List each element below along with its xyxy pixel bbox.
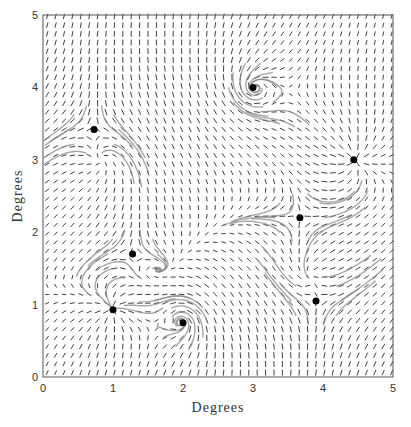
vector-field-chart: 012345 012345 Degrees Degrees <box>0 0 411 427</box>
vector-arrow <box>46 345 48 349</box>
vector-arrow <box>391 127 393 131</box>
vector-arrow <box>247 66 250 71</box>
vector-arrow <box>357 179 359 184</box>
vector-arrow <box>214 153 216 157</box>
vector-arrow <box>323 110 325 114</box>
vector-arrow <box>79 109 82 114</box>
vector-arrow <box>357 370 359 375</box>
vector-arrow <box>215 370 216 375</box>
vector-arrow <box>54 336 56 339</box>
vector-arrow <box>179 285 184 286</box>
vector-arrow <box>289 128 293 130</box>
vector-arrow <box>55 371 57 375</box>
vector-arrow <box>89 31 90 36</box>
vector-arrow <box>215 335 216 340</box>
vector-arrow <box>155 336 158 339</box>
vector-arrow <box>273 327 275 332</box>
vector-arrow <box>215 361 216 366</box>
vector-arrow <box>104 267 108 269</box>
vector-arrow <box>198 344 199 349</box>
vector-arrow <box>173 83 174 88</box>
vector-arrow <box>54 302 57 303</box>
vector-arrow <box>324 49 325 53</box>
vector-arrow <box>223 180 224 184</box>
vector-arrow <box>97 31 98 36</box>
vector-arrow <box>265 335 266 340</box>
vector-arrow <box>188 276 192 277</box>
vector-arrow <box>383 40 384 44</box>
vector-arrow <box>163 294 167 295</box>
vector-arrow <box>298 309 301 314</box>
vector-arrow <box>105 362 106 367</box>
vector-arrow <box>272 129 276 131</box>
vector-arrow <box>79 172 83 174</box>
vector-arrow <box>223 335 224 340</box>
vector-arrow <box>348 154 352 158</box>
vector-arrow <box>113 231 116 235</box>
vector-arrow <box>324 93 325 97</box>
vector-arrow <box>147 327 149 331</box>
vector-arrow <box>305 163 309 165</box>
vector-arrow <box>46 353 48 357</box>
vector-arrow <box>113 214 115 219</box>
vector-arrow <box>298 32 300 36</box>
vector-arrow <box>63 84 65 89</box>
vector-arrow <box>264 32 267 36</box>
vector-arrow <box>348 250 352 252</box>
vector-arrow <box>322 301 327 305</box>
vector-arrow <box>314 240 317 244</box>
vector-arrow <box>383 58 384 62</box>
vector-arrow <box>122 92 123 97</box>
vector-arrow <box>281 32 284 36</box>
vector-arrow <box>340 353 342 358</box>
vector-arrow <box>248 344 249 349</box>
vector-arrow <box>349 127 350 132</box>
vector-arrow <box>46 223 49 226</box>
vector-arrow <box>46 197 49 200</box>
vector-arrow <box>113 292 115 297</box>
vector-arrow <box>280 103 284 104</box>
vector-arrow <box>280 68 284 70</box>
vector-arrow <box>341 92 342 96</box>
vector-arrow <box>122 214 123 219</box>
vector-arrow <box>205 259 209 261</box>
vector-arrow <box>230 284 233 288</box>
vector-arrow <box>198 232 200 235</box>
vector-arrow <box>71 223 74 226</box>
vector-arrow <box>89 66 90 71</box>
vector-arrow <box>391 84 392 88</box>
vector-arrow <box>131 205 132 210</box>
vector-arrow <box>247 267 250 270</box>
vector-arrow <box>364 232 368 235</box>
vector-arrow <box>79 223 82 226</box>
vector-arrow <box>139 370 140 375</box>
vector-arrow <box>104 128 109 131</box>
vector-arrow <box>54 223 57 226</box>
vector-arrow <box>248 180 249 184</box>
vector-arrow <box>239 233 243 234</box>
vector-arrow <box>239 162 241 166</box>
vector-arrow <box>299 84 300 88</box>
vector-arrow <box>89 83 90 88</box>
vector-arrow <box>306 197 310 201</box>
vector-arrow <box>55 75 57 80</box>
vector-arrow <box>314 277 318 278</box>
vector-arrow <box>256 171 258 175</box>
vector-arrow <box>206 361 207 366</box>
vector-arrow <box>306 110 309 113</box>
vector-arrow <box>331 259 335 261</box>
vector-arrow <box>248 327 249 332</box>
vector-arrow <box>205 251 209 252</box>
vector-arrow <box>289 120 293 122</box>
vector-arrow <box>71 101 73 106</box>
vector-arrow <box>383 84 384 88</box>
vector-arrow <box>298 93 300 96</box>
vector-arrow <box>231 171 233 175</box>
vector-arrow <box>155 127 157 131</box>
vector-arrow <box>189 92 190 97</box>
vector-arrow <box>206 75 207 80</box>
vector-arrow <box>297 285 301 287</box>
vector-arrow <box>232 344 233 349</box>
vector-arrow <box>78 128 83 130</box>
vector-arrow <box>322 154 327 156</box>
